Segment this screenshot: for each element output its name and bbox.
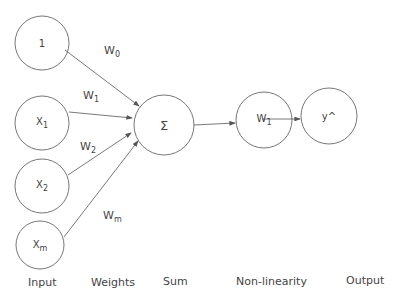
weight-w1: W1	[83, 89, 99, 104]
edge-xm-to-sum	[64, 141, 138, 237]
diagram-canvas	[0, 0, 402, 300]
xm-label: Xm	[33, 239, 48, 253]
edge-x1-to-sum	[69, 112, 132, 118]
edge-sum-to-nonlinearity	[194, 123, 235, 125]
weight-w2: W2	[80, 140, 96, 155]
output-label: y^	[322, 111, 336, 122]
stage-label-nonlinearity: Non-linearity	[236, 275, 307, 288]
edge-bias-to-sum	[65, 50, 139, 106]
weight-w0: W0	[104, 44, 120, 59]
weight-wm: Wm	[103, 209, 122, 224]
stage-label-output: Output	[346, 274, 384, 287]
stage-label-sum: Sum	[163, 275, 188, 288]
stage-label-weights: Weights	[91, 276, 135, 289]
nonlinearity-label: W1	[257, 113, 272, 127]
edge-x2-to-sum	[68, 133, 131, 175]
stage-label-input: Input	[28, 276, 56, 289]
x1-label: X1	[36, 116, 48, 130]
bias-label: 1	[39, 38, 45, 49]
x2-label: X2	[36, 179, 48, 193]
sigma-icon: Σ	[160, 118, 168, 133]
